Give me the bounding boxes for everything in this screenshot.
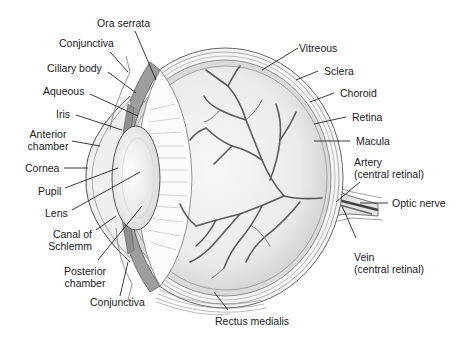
label-posterior-chamber: Posterior chamber [62,265,108,289]
label-anterior-chamber: Anterior chamber [26,128,70,152]
label-artery-line1: Artery [354,156,424,168]
label-anterior-chamber-line1: Anterior [26,128,70,140]
eye-diagram: Ora serrata Conjunctiva Ciliary body Aqu… [0,0,472,344]
lens [112,126,160,230]
label-vitreous: Vitreous [299,42,337,54]
label-canal-line2: Schlemm [44,240,92,252]
label-cornea: Cornea [25,162,59,174]
label-iris: Iris [56,108,70,120]
label-optic-nerve: Optic nerve [392,197,446,209]
label-choroid: Choroid [340,87,377,99]
label-lens: Lens [45,207,68,219]
label-ora-serrata: Ora serrata [97,17,150,29]
label-pupil: Pupil [38,185,61,197]
label-rectus-medialis: Rectus medialis [215,315,289,327]
label-vein-line2: (central retinal) [354,263,424,275]
label-anterior-chamber-line2: chamber [26,140,70,152]
label-ciliary-body: Ciliary body [47,62,102,74]
label-aqueous: Aqueous [43,85,84,97]
label-canal-of-schlemm: Canal of Schlemm [44,228,92,252]
label-posterior-chamber-line2: chamber [62,277,108,289]
label-artery: Artery (central retinal) [354,156,424,180]
label-conjunctiva-bottom: Conjunctiva [90,296,145,308]
label-conjunctiva-top: Conjunctiva [59,37,114,49]
label-retina: Retina [352,111,382,123]
label-macula: Macula [356,135,390,147]
label-artery-line2: (central retinal) [354,168,424,180]
label-sclera: Sclera [324,65,354,77]
label-canal-line1: Canal of [44,228,92,240]
label-vein-line1: Vein [354,251,424,263]
label-vein: Vein (central retinal) [354,251,424,275]
label-posterior-chamber-line1: Posterior [62,265,108,277]
